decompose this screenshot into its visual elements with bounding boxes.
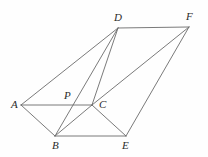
vertex-label-c: C bbox=[99, 99, 106, 110]
edge-ce bbox=[92, 105, 126, 136]
edge-df bbox=[118, 27, 189, 28]
vertex-label-b: B bbox=[52, 140, 59, 151]
edge-ab bbox=[21, 105, 55, 136]
edge-ef bbox=[126, 27, 189, 136]
vertex-label-e: E bbox=[122, 140, 129, 151]
vertex-label-p: P bbox=[64, 90, 71, 101]
geometry-figure: ABCDEFP bbox=[0, 0, 208, 157]
edge-bc bbox=[55, 105, 92, 136]
vertex-label-f: F bbox=[186, 11, 193, 22]
vertex-label-d: D bbox=[114, 12, 122, 23]
vertex-label-a: A bbox=[11, 99, 18, 110]
figure-canvas bbox=[0, 0, 208, 157]
edge-group bbox=[21, 27, 189, 136]
edge-cf bbox=[92, 27, 189, 105]
